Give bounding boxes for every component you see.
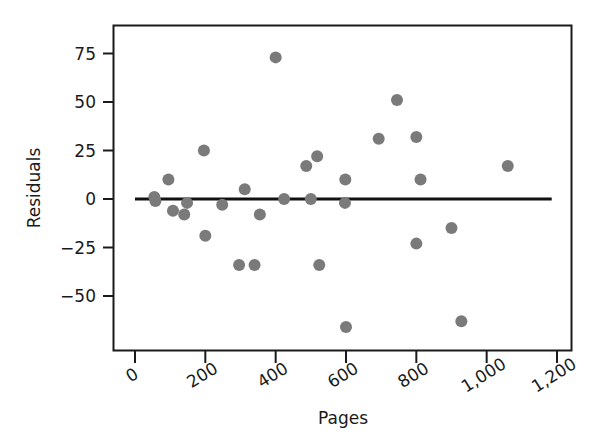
data-point: [162, 174, 174, 186]
data-point: [198, 145, 210, 157]
data-point: [167, 205, 179, 217]
data-point: [313, 259, 325, 271]
data-point: [410, 238, 422, 250]
x-tick-label: 0: [122, 364, 142, 387]
data-point: [410, 131, 422, 143]
data-point: [455, 315, 467, 327]
data-point: [415, 174, 427, 186]
data-point: [199, 230, 211, 242]
data-point: [178, 209, 190, 221]
data-point: [339, 197, 351, 209]
data-point: [149, 195, 161, 207]
y-tick-label: 50: [74, 92, 96, 112]
data-point: [270, 51, 282, 63]
residual-plot: 7550250−25−50 02004006008001,0001,200 Pa…: [0, 0, 604, 441]
data-point: [305, 193, 317, 205]
y-tick-label: 25: [74, 141, 96, 161]
x-tick-label: 1,200: [528, 354, 580, 397]
x-tick-label: 600: [324, 358, 362, 392]
data-point: [249, 259, 261, 271]
scatter-plot-svg: 7550250−25−50 02004006008001,0001,200 Pa…: [0, 0, 604, 441]
data-point: [300, 160, 312, 172]
data-point: [216, 199, 228, 211]
data-point: [339, 174, 351, 186]
data-point: [391, 94, 403, 106]
y-tick-label: 0: [85, 189, 96, 209]
y-axis-tick-labels: 7550250−25−50: [60, 44, 96, 307]
x-tick-label: 800: [394, 358, 432, 392]
x-axis-title: Pages: [318, 408, 368, 428]
y-axis-title: Residuals: [24, 148, 44, 229]
data-point: [446, 222, 458, 234]
data-point: [254, 209, 266, 221]
data-point: [340, 321, 352, 333]
plot-frame: [114, 26, 572, 351]
x-tick-label: 1,000: [458, 354, 510, 397]
y-tick-label: −50: [60, 286, 96, 306]
x-axis-tick-labels: 02004006008001,0001,200: [122, 354, 580, 397]
x-tick-label: 200: [183, 358, 221, 392]
y-tick-label: −25: [60, 238, 96, 258]
data-point: [278, 193, 290, 205]
data-point: [502, 160, 514, 172]
data-point: [239, 183, 251, 195]
data-point: [181, 197, 193, 209]
data-point: [311, 150, 323, 162]
y-tick-label: 75: [74, 44, 96, 64]
data-point: [233, 259, 245, 271]
y-axis-ticks: [103, 54, 114, 297]
data-points: [148, 51, 513, 333]
x-tick-label: 400: [253, 358, 291, 392]
data-point: [373, 133, 385, 145]
